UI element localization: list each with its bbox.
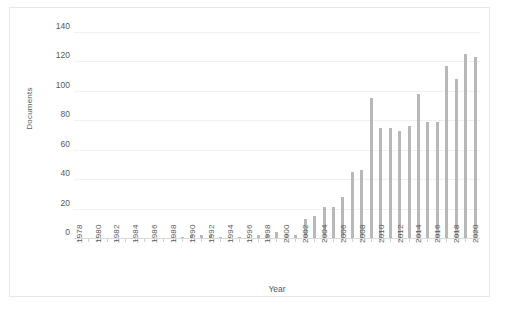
bar[interactable]	[332, 207, 335, 238]
bar-slot	[338, 32, 347, 238]
bar[interactable]	[379, 128, 382, 238]
bar-slot	[206, 32, 215, 238]
tick-slot	[404, 239, 413, 242]
bar[interactable]	[351, 172, 354, 238]
bar-slot	[385, 32, 394, 238]
bar-slot	[310, 32, 319, 238]
bar[interactable]	[398, 131, 401, 238]
x-label-slot: 2000	[282, 243, 291, 283]
x-label-slot	[348, 243, 357, 283]
x-axis-tick-label: 2000	[282, 224, 291, 243]
bar-slot	[244, 32, 253, 238]
bar[interactable]	[389, 128, 392, 238]
tick-mark	[88, 239, 89, 242]
y-axis-tick-label: 120	[34, 50, 70, 60]
bar-slot	[253, 32, 262, 238]
bar-slot	[367, 32, 376, 238]
x-label-slot	[216, 243, 225, 283]
tick-mark	[295, 239, 296, 242]
x-label-slot: 2018	[452, 243, 461, 283]
bar-slot	[329, 32, 338, 238]
bar-slot	[121, 32, 130, 238]
tick-slot	[197, 239, 206, 242]
x-axis-tick-label: 2016	[433, 224, 442, 243]
bar-slot	[131, 32, 140, 238]
tick-mark	[314, 239, 315, 242]
x-label-slot: 2004	[319, 243, 328, 283]
bar[interactable]	[436, 122, 439, 238]
bar[interactable]	[445, 66, 448, 238]
tick-slot	[385, 239, 394, 242]
x-axis-title: Year	[74, 284, 480, 294]
x-label-slot: 2014	[414, 243, 423, 283]
bar-slot	[74, 32, 83, 238]
bar[interactable]	[417, 94, 420, 238]
x-label-slot	[385, 243, 394, 283]
x-label-slot: 2006	[338, 243, 347, 283]
bar[interactable]	[408, 126, 411, 238]
bar-slot	[178, 32, 187, 238]
tick-slot	[216, 239, 225, 242]
tick-mark	[390, 239, 391, 242]
bar[interactable]	[474, 57, 477, 238]
bar-slot	[263, 32, 272, 238]
bar-slot	[282, 32, 291, 238]
bar-slot	[433, 32, 442, 238]
x-label-slot	[253, 243, 262, 283]
x-axis-tick-label: 1998	[263, 224, 272, 243]
bar[interactable]	[370, 98, 373, 238]
x-axis-tick-label: 2010	[376, 224, 385, 243]
x-label-slot	[121, 243, 130, 283]
tick-slot	[121, 239, 130, 242]
x-label-slot	[461, 243, 470, 283]
x-label-slot: 1994	[225, 243, 234, 283]
bar-slot	[348, 32, 357, 238]
tick-slot	[461, 239, 470, 242]
bar-slot	[423, 32, 432, 238]
bar-series	[74, 32, 480, 238]
tick-mark	[125, 239, 126, 242]
x-axis-tick-label: 2008	[357, 224, 366, 243]
x-label-slot: 1982	[112, 243, 121, 283]
x-axis-tick-label: 2020	[471, 224, 480, 243]
y-axis-tick-label: 100	[34, 80, 70, 90]
x-axis-tick-label: 1980	[93, 224, 102, 243]
y-axis-tick-label: 40	[34, 168, 70, 178]
y-axis-tick-label: 0	[34, 227, 70, 237]
bar[interactable]	[426, 122, 429, 238]
tick-slot	[178, 239, 187, 242]
x-axis-tick-label: 1992	[206, 224, 215, 243]
bar-slot	[404, 32, 413, 238]
bar[interactable]	[455, 79, 458, 238]
tick-mark	[163, 239, 164, 242]
x-label-slot: 2008	[357, 243, 366, 283]
bar[interactable]	[464, 54, 467, 238]
x-label-slot: 1984	[131, 243, 140, 283]
x-label-slot: 2002	[301, 243, 310, 283]
bar-slot	[395, 32, 404, 238]
x-label-slot	[178, 243, 187, 283]
tick-mark	[239, 239, 240, 242]
bar-slot	[187, 32, 196, 238]
bar-slot	[442, 32, 451, 238]
x-axis-tick-label: 1984	[131, 224, 140, 243]
bar-slot	[301, 32, 310, 238]
x-axis-tick-label: 1978	[74, 224, 83, 243]
bar-slot	[93, 32, 102, 238]
bar-slot	[140, 32, 149, 238]
bar-slot	[376, 32, 385, 238]
x-axis-tick-label: 2018	[452, 224, 461, 243]
x-label-slot: 1980	[93, 243, 102, 283]
y-axis-tick-label: 20	[34, 198, 70, 208]
tick-slot	[423, 239, 432, 242]
x-label-slot: 1986	[150, 243, 159, 283]
bar-slot	[159, 32, 168, 238]
x-label-slot	[291, 243, 300, 283]
bar[interactable]	[313, 216, 316, 238]
bar-slot	[102, 32, 111, 238]
bar-slot	[216, 32, 225, 238]
tick-mark	[465, 239, 466, 242]
tick-mark	[182, 239, 183, 242]
bar-slot	[112, 32, 121, 238]
tick-slot	[140, 239, 149, 242]
